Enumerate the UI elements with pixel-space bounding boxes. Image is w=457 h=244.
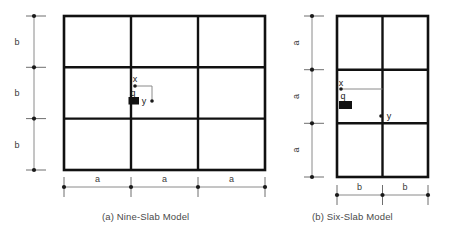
panel-a-vdim-dot-1 <box>32 65 36 69</box>
panel-b-hdim-dot-1 <box>380 193 384 197</box>
panel-b-vertical-dimension: a a a <box>291 14 324 179</box>
panel-b-vdim-dot-2 <box>310 121 314 125</box>
panel-b-axes-annotation: x y q <box>339 78 392 121</box>
panel-a-axes-annotation: x y q <box>129 74 154 106</box>
panel-a-hdim-dot-0 <box>62 185 66 189</box>
panel-b-vdim-dot-0 <box>310 14 314 18</box>
figure-root: b b b a a a <box>0 0 457 244</box>
panel-a-vdim-label-0: b <box>14 37 19 47</box>
panel-a-y-axis-label: y <box>142 96 147 106</box>
panel-a-hdim-dot-1 <box>129 185 133 189</box>
panel-b-caption: (b) Six-Slab Model <box>312 211 393 222</box>
panel-b-hdim-dot-2 <box>426 193 430 197</box>
panel-a-vdim-label-1: b <box>14 88 19 98</box>
panel-a-vdim-label-2: b <box>14 140 19 150</box>
panel-b-y-axis-dot <box>379 114 383 118</box>
panel-b-hdim-dot-0 <box>335 193 339 197</box>
panel-a-hdim-label-0: a <box>95 174 100 184</box>
panel-b-load-block <box>339 101 352 109</box>
panel-b-x-axis-label: x <box>339 78 344 88</box>
panel-b-load-label: q <box>340 91 345 101</box>
panel-b-vdim-label-2: a <box>291 147 301 152</box>
panel-a-nine-slab: b b b a a a <box>14 14 267 197</box>
panel-b-vdim-dot-1 <box>310 68 314 72</box>
panel-a-vdim-dot-0 <box>32 14 36 18</box>
panel-a-y-axis-dot <box>150 99 154 103</box>
slab-models-diagram: b b b a a a <box>0 0 457 244</box>
panel-a-vdim-dot-3 <box>32 168 36 172</box>
panel-b-hdim-label-0: b <box>357 182 362 192</box>
panel-b-y-axis-label: y <box>387 111 392 121</box>
panel-b-vdim-dot-3 <box>310 175 314 179</box>
panel-b-hdim-label-1: b <box>402 182 407 192</box>
panel-b-vdim-label-1: a <box>291 94 301 99</box>
panel-a-hdim-label-2: a <box>229 174 234 184</box>
panel-a-x-axis-label: x <box>133 74 138 84</box>
panel-a-grid-outline <box>64 16 265 170</box>
panel-b-vdim-label-0: a <box>291 40 301 45</box>
panel-b-horizontal-dimension: b b <box>335 182 430 205</box>
panel-a-slab-grid <box>64 16 265 170</box>
panel-a-vdim-dot-2 <box>32 117 36 121</box>
panel-b-slab-grid <box>337 16 428 177</box>
panel-a-hdim-label-1: a <box>162 174 167 184</box>
panel-a-hdim-dot-3 <box>263 185 267 189</box>
panel-a-load-label: q <box>130 88 135 98</box>
panel-a-vertical-dimension: b b b <box>14 14 46 172</box>
panel-a-caption: (a) Nine-Slab Model <box>102 211 189 222</box>
panel-a-load-block <box>129 97 140 105</box>
panel-a-horizontal-dimension: a a a <box>62 174 267 197</box>
panel-b-six-slab: a a a b b <box>291 14 430 205</box>
panel-a-hdim-dot-2 <box>196 185 200 189</box>
